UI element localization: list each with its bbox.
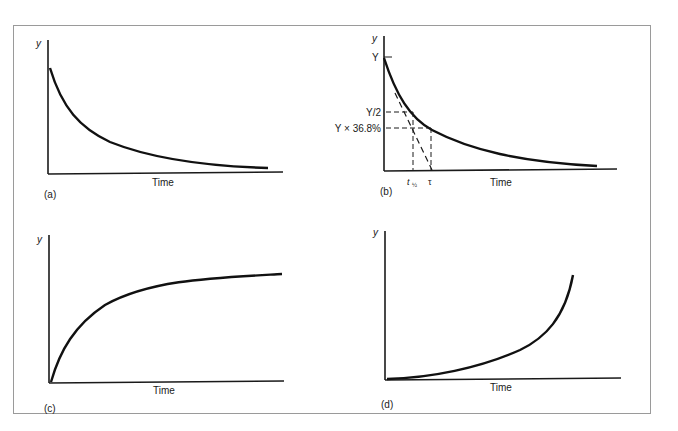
growth-curve [387,275,573,379]
y-axis-label: y [35,38,42,49]
t-half-label: t [407,177,410,187]
y-axis-label: y [372,227,379,238]
x-axis-label: Time [490,382,512,393]
y-axis-label: y [371,33,378,44]
y-axis-label: y [36,234,43,245]
x-axis [385,378,621,380]
decay-curve [50,68,268,168]
figure-canvas: y Time (a) y Y Y/2 Y × 36.8% t ½ τ Time … [0,0,678,431]
x-axis-label: Time [490,177,512,188]
panel-c: y Time (c) [36,234,284,414]
x-axis [48,172,283,174]
y-half-label: Y/2 [366,107,381,118]
tau-label: τ [428,177,432,187]
panel-a: y Time (a) [35,38,283,200]
panel-tag: (b) [380,186,392,197]
panel-b: y Y Y/2 Y × 36.8% t ½ τ Time (b) [335,33,617,197]
panel-d: y Time (d) [372,227,621,410]
t-half-subscript: ½ [412,182,417,188]
rise-curve [51,274,282,382]
panel-tag: (a) [44,189,56,200]
y-36-8-label: Y × 36.8% [335,123,381,134]
decay-curve [384,58,597,166]
x-axis [49,381,284,383]
panel-tag: (d) [381,399,393,410]
x-axis-label: Time [153,385,175,396]
x-axis [384,169,617,171]
x-axis-label: Time [152,177,174,188]
y0-label: Y [372,52,379,63]
panel-tag: (c) [44,403,56,414]
